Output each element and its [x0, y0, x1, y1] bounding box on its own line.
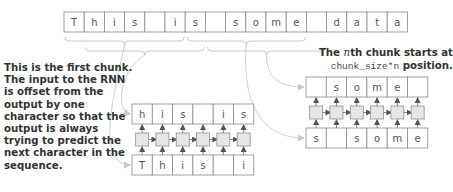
char-label: T — [138, 160, 146, 171]
char-cell — [326, 128, 346, 148]
char-label: s — [233, 17, 238, 28]
first-chunk-rnn: his isThis i — [132, 104, 254, 175]
char-label: s — [354, 133, 359, 144]
nth-chunk-rnn: some s some — [306, 77, 428, 148]
nth-chunk-note-prefix: The — [319, 47, 344, 58]
rnn-cell — [350, 106, 363, 119]
char-label: m — [372, 82, 382, 93]
input-row: s some — [306, 128, 428, 148]
chunk-brace — [65, 37, 184, 45]
char-cell — [213, 155, 233, 175]
char-label: i — [113, 17, 116, 28]
char-label: i — [174, 17, 177, 28]
rnn-cell — [330, 106, 343, 119]
char-label: a — [394, 17, 400, 28]
nth-chunk-note-suffix: position. — [399, 60, 453, 71]
connector-curve — [246, 45, 304, 138]
char-label: o — [354, 82, 360, 93]
char-cell — [205, 12, 225, 32]
char-label: h — [159, 160, 165, 171]
char-cell — [145, 12, 165, 32]
char-cell — [193, 104, 213, 124]
char-label: s — [132, 17, 137, 28]
sequence-cells: This is some data — [64, 12, 407, 32]
char-label: o — [374, 133, 380, 144]
char-label: t — [375, 17, 379, 28]
char-label: s — [334, 82, 339, 93]
char-label: h — [139, 109, 145, 120]
char-label: m — [271, 17, 281, 28]
char-label: i — [242, 160, 245, 171]
char-label: e — [415, 133, 421, 144]
char-label: T — [70, 17, 78, 28]
char-label: s — [314, 133, 319, 144]
rnn-cell — [217, 133, 230, 146]
rnn-cell — [136, 133, 149, 146]
char-cell — [306, 77, 326, 97]
rnn-cell — [176, 133, 189, 146]
char-label: a — [354, 17, 360, 28]
char-label: s — [241, 109, 246, 120]
first-chunk-note: This is the first chunk. The input to th… — [4, 62, 134, 172]
output-row: his is — [132, 104, 254, 124]
rnn-cell — [156, 133, 169, 146]
char-label: s — [193, 17, 198, 28]
input-row: This i — [132, 155, 254, 175]
connector-curve — [267, 55, 305, 87]
nth-chunk-note-mid: th chunk starts at — [350, 47, 453, 58]
rnn-cell — [237, 133, 250, 146]
char-label: m — [392, 133, 402, 144]
nth-chunk-note: The nth chunk starts atchunk_size*n posi… — [316, 46, 453, 73]
rnn-cell — [310, 106, 323, 119]
char-label: d — [334, 17, 340, 28]
rnn-cell — [391, 106, 404, 119]
char-label: s — [180, 109, 185, 120]
char-label: h — [91, 17, 97, 28]
char-label: s — [200, 160, 205, 171]
char-label: i — [161, 109, 164, 120]
rnn-cell — [197, 133, 210, 146]
sequence-strip: This is some data — [64, 12, 407, 32]
chunk-brace — [187, 37, 305, 45]
rnn-cell — [411, 106, 424, 119]
char-label: i — [181, 160, 184, 171]
char-cell — [408, 77, 428, 97]
char-label: o — [253, 17, 259, 28]
char-label: i — [222, 109, 225, 120]
char-cell — [306, 12, 326, 32]
chunk-brace — [207, 47, 325, 55]
output-row: some — [306, 77, 428, 97]
rnn-cell — [371, 106, 384, 119]
chunk-braces — [65, 37, 326, 55]
chunk-size-code: chunk_size*n — [331, 61, 399, 72]
char-label: e — [394, 82, 400, 93]
chunk-brace — [85, 47, 204, 55]
char-label: e — [293, 17, 299, 28]
